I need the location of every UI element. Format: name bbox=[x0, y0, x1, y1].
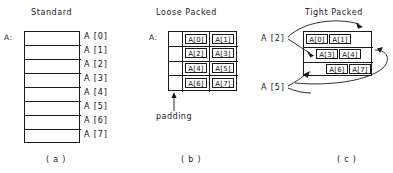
standard-slot-0 bbox=[25, 32, 81, 46]
arrow-a5-right-head bbox=[377, 47, 383, 53]
standard-index-label-2: A [2] bbox=[84, 60, 108, 69]
tight-cell-0-0: A[0] bbox=[306, 34, 328, 44]
arrow-a2-upper-head bbox=[356, 23, 363, 29]
loose-cell-2-2: A[5] bbox=[212, 63, 234, 73]
tight-pointer-label-a5: A [5] bbox=[261, 83, 285, 92]
loose-col-divider-2 bbox=[209, 32, 210, 92]
standard-index-label-4: A [4] bbox=[84, 88, 108, 97]
tight-cell-2-1: A[6] bbox=[326, 64, 348, 74]
standard-slot-5 bbox=[25, 102, 81, 116]
padding-label: padding bbox=[156, 112, 192, 121]
tight-row-divider-1 bbox=[304, 47, 373, 48]
standard-slot-4 bbox=[25, 88, 81, 102]
standard-slot-6 bbox=[25, 116, 81, 130]
loose-cell-1-1: A[2] bbox=[185, 48, 207, 58]
tight-row-divider-2 bbox=[304, 62, 373, 63]
tight-packed-grid: A[0] A[1] A[3] A[4] A[6] A[7] bbox=[303, 31, 372, 76]
standard-slot-3 bbox=[25, 74, 81, 88]
panel-standard: Standard A: A [0] A [1] A [2] A [3] A [4… bbox=[0, 0, 130, 173]
loose-cell-3-1: A[6] bbox=[185, 78, 207, 88]
loose-packed-grid: A[0] A[1] A[2] A[3] A[4] A[5] A[6] A[7] bbox=[168, 31, 237, 91]
padding-arrow-head bbox=[171, 92, 176, 98]
loose-cell-3-2: A[7] bbox=[212, 78, 234, 88]
standard-slot-7 bbox=[25, 130, 81, 144]
panel-loose-packed: Loose Packed A: A[0] A[1] A[2] A[3] A[4]… bbox=[130, 0, 255, 173]
standard-slot-1 bbox=[25, 46, 81, 60]
standard-slot-2 bbox=[25, 60, 81, 74]
loose-cell-0-1: A[0] bbox=[185, 34, 207, 44]
standard-index-label-7: A [7] bbox=[84, 130, 108, 139]
panel-caption-c: ( c ) bbox=[337, 155, 357, 164]
figure-array-packing: Standard A: A [0] A [1] A [2] A [3] A [4… bbox=[0, 0, 393, 173]
standard-index-label-0: A [0] bbox=[84, 32, 108, 41]
tight-cell-0-1: A[1] bbox=[329, 34, 351, 44]
array-base-label-standard: A: bbox=[4, 33, 13, 42]
tight-cell-1-2: A[4] bbox=[339, 49, 361, 59]
arrow-a5-lower-path bbox=[288, 88, 311, 93]
tight-pointer-label-a2: A [2] bbox=[261, 34, 285, 43]
tight-cell-2-2: A[7] bbox=[349, 64, 371, 74]
panel-caption-b: ( b ) bbox=[181, 155, 201, 164]
loose-row-divider-3 bbox=[169, 75, 238, 76]
loose-cell-2-1: A[4] bbox=[185, 63, 207, 73]
loose-col-divider-1 bbox=[182, 32, 183, 92]
standard-array-box bbox=[24, 31, 80, 143]
standard-index-label-5: A [5] bbox=[84, 102, 108, 111]
tight-cell-1-1: A[3] bbox=[316, 49, 338, 59]
standard-index-label-3: A [3] bbox=[84, 74, 108, 83]
panel-caption-a: ( a ) bbox=[46, 155, 66, 164]
array-base-label-loose: A: bbox=[149, 33, 158, 42]
panel-title-loose-packed: Loose Packed bbox=[156, 8, 217, 17]
standard-index-label-1: A [1] bbox=[84, 46, 108, 55]
panel-title-standard: Standard bbox=[31, 8, 72, 17]
standard-index-label-6: A [6] bbox=[84, 116, 108, 125]
panel-tight-packed: Tight Packed A[0] A[1] A[3] A[4] A[6] A[… bbox=[255, 0, 393, 173]
loose-cell-1-2: A[3] bbox=[212, 48, 234, 58]
loose-cell-0-2: A[1] bbox=[212, 34, 234, 44]
loose-row-divider-1 bbox=[169, 46, 238, 47]
arrow-a5-right-path bbox=[375, 50, 387, 68]
loose-row-divider-2 bbox=[169, 61, 238, 62]
panel-title-tight-packed: Tight Packed bbox=[305, 8, 363, 17]
